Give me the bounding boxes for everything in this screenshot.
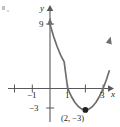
curve-right-arrow-icon: [106, 37, 112, 45]
vertex-annotation-label: (2, −3): [61, 114, 84, 123]
x-axis-label: x: [111, 90, 115, 99]
x-tick-label-neg1: −1: [27, 91, 37, 100]
y-tick-label-neg3: −3: [29, 104, 39, 113]
y-axis-label: y: [40, 4, 44, 13]
y-axis-arrow-icon: [47, 5, 54, 11]
y-tick-label-9: 9: [39, 20, 44, 29]
vertex-point-marker: [83, 107, 89, 113]
coordinate-plane: [0, 0, 120, 127]
parabola-graph-figure: y x 9 −3 −1 1 3 (2, −3): [0, 0, 120, 127]
x-tick-label-3: 3: [100, 91, 105, 100]
x-tick-label-1: 1: [65, 91, 70, 100]
curve-left-arrow-icon: [47, 18, 53, 25]
